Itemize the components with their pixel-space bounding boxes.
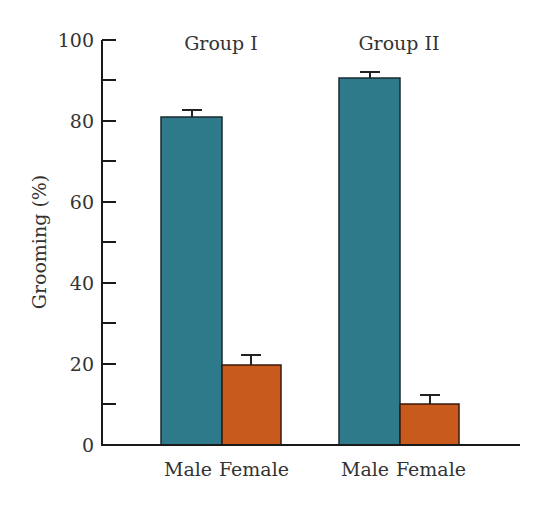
x-label-group1-male: Male [164,458,212,480]
y-tick-labels: 100 80 60 40 20 0 [58,29,94,456]
x-category-labels: Male Female Male Female [164,458,466,480]
x-label-group2-male: Male [341,458,389,480]
y-tick-label-0: 0 [82,434,94,456]
y-tick-label-20: 20 [70,353,94,375]
bar-group1-male [161,117,222,445]
bar-group1-female [222,365,281,445]
group-1-bars [161,110,281,445]
error-bar-group1-female [241,355,261,365]
group-2-bars [339,72,459,445]
y-axis-label: Grooming (%) [28,175,50,310]
x-label-group1-female: Female [219,458,289,480]
group-label-group-1: Group I [184,32,258,54]
error-bar-group2-female [420,395,440,404]
y-axis [102,40,116,446]
x-label-group2-female: Female [396,458,466,480]
y-tick-label-100: 100 [58,29,94,51]
bar-group2-male [339,78,400,445]
group-label-group-2: Group II [358,32,439,54]
grouped-bar-chart: Grooming (%) 100 80 60 40 20 0 Group I G… [0,0,537,510]
error-bar-group1-male [182,110,202,117]
y-tick-label-80: 80 [70,110,94,132]
bar-group2-female [400,404,459,445]
error-bar-group2-male [360,72,380,78]
y-tick-label-60: 60 [70,191,94,213]
y-tick-label-40: 40 [70,272,94,294]
